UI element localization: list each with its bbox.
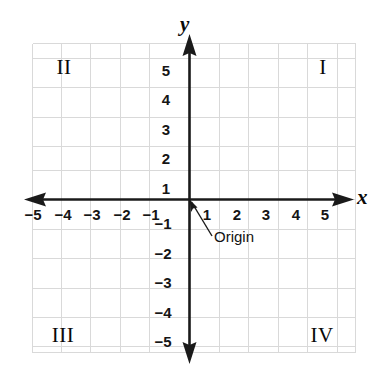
x-tick-label-neg3: −3 bbox=[81, 207, 103, 222]
y-tick-label-neg2: −2 bbox=[152, 246, 174, 261]
x-tick-label-pos1: 1 bbox=[199, 207, 215, 222]
y-tick-label-neg1: −1 bbox=[152, 216, 174, 231]
quadrant-label-i: I bbox=[312, 57, 334, 78]
x-tick-label-pos5: 5 bbox=[317, 207, 333, 222]
y-tick-label-pos3: 3 bbox=[158, 122, 174, 137]
y-tick-label-neg5: −5 bbox=[152, 334, 174, 349]
x-tick-label-neg2: −2 bbox=[111, 207, 133, 222]
y-axis-label: y bbox=[180, 14, 189, 35]
x-tick-label-neg4: −4 bbox=[52, 207, 74, 222]
y-tick-label-pos2: 2 bbox=[158, 151, 174, 166]
grid-lines bbox=[33, 44, 356, 353]
x-tick-label-pos2: 2 bbox=[229, 207, 245, 222]
x-tick-label-pos3: 3 bbox=[258, 207, 274, 222]
quadrant-label-iii: III bbox=[45, 325, 81, 346]
y-tick-label-pos5: 5 bbox=[158, 63, 174, 78]
x-tick-label-neg5: −5 bbox=[22, 207, 44, 222]
origin-annotation-label: Origin bbox=[214, 229, 254, 244]
quadrant-label-ii: II bbox=[51, 57, 77, 78]
coordinate-plane-figure: x y I II III IV −5 −4 −3 −2 −1 1 2 3 4 5… bbox=[0, 0, 386, 375]
x-axis-label: x bbox=[357, 187, 368, 208]
x-tick-label-pos4: 4 bbox=[288, 207, 304, 222]
quadrant-label-iv: IV bbox=[304, 325, 340, 346]
y-tick-label-neg4: −4 bbox=[152, 305, 174, 320]
y-tick-label-neg3: −3 bbox=[152, 275, 174, 290]
y-tick-label-pos4: 4 bbox=[158, 92, 174, 107]
y-tick-label-pos1: 1 bbox=[158, 181, 174, 196]
